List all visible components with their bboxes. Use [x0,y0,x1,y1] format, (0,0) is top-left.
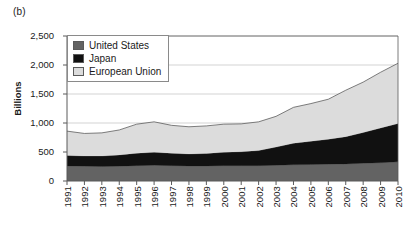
y-tick-label: 1,000 [10,118,54,128]
y-tick-label: 500 [10,147,54,157]
y-tick-label: 0 [10,176,54,186]
x-tick-label: 2006 [323,186,334,208]
chart-legend: United States Japan European Union [67,35,169,82]
x-tick-label: 1994 [114,186,125,208]
x-tick-label: 2002 [254,186,265,208]
legend-swatch-united-states [73,41,84,50]
x-tick-label: 1998 [184,186,195,208]
x-tick-label: 1992 [79,186,90,208]
legend-item: European Union [73,65,161,78]
legend-item: United States [73,39,161,52]
x-tick-label: 1991 [62,186,73,208]
x-tick-label: 2000 [219,186,230,208]
figure-panel-b: (b) Billions 05001,0001,5002,0002,500 19… [0,0,414,226]
legend-label-united-states: United States [89,40,149,51]
y-tick-label: 2,000 [10,60,54,70]
legend-label-european-union: European Union [89,66,161,77]
x-tick-label: 2009 [376,186,387,208]
legend-swatch-japan [73,54,84,63]
y-tick-label: 1,500 [10,89,54,99]
y-axis-ticks: 05001,0001,5002,0002,500 [10,0,54,226]
x-tick-label: 2003 [271,186,282,208]
x-tick-label: 2005 [306,186,317,208]
legend-item: Japan [73,52,161,65]
x-tick-label: 1999 [201,186,212,208]
x-tick-label: 1995 [132,186,143,208]
x-tick-label: 2004 [288,186,299,208]
x-tick-label: 1996 [149,186,160,208]
x-tick-label: 2010 [393,186,404,208]
x-tick-label: 2007 [341,186,352,208]
legend-label-japan: Japan [89,53,116,64]
x-tick-label: 2001 [236,186,247,208]
y-tick-label: 2,500 [10,31,54,41]
x-tick-label: 1993 [97,186,108,208]
x-tick-label: 2008 [358,186,369,208]
x-tick-label: 1997 [167,186,178,208]
legend-swatch-european-union [73,67,84,76]
